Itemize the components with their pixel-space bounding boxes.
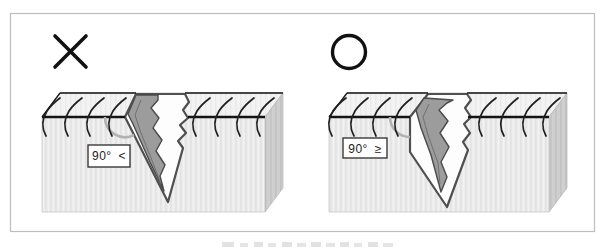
figure-canvas: 90° < xyxy=(0,0,609,248)
angle-label-text: 90° ≥ xyxy=(348,142,382,156)
caption-fragment xyxy=(222,242,393,247)
angle-label-text: 90° < xyxy=(92,149,126,163)
angle-label-box: 90° < xyxy=(88,145,130,167)
angle-label-box: 90° ≥ xyxy=(343,138,387,158)
